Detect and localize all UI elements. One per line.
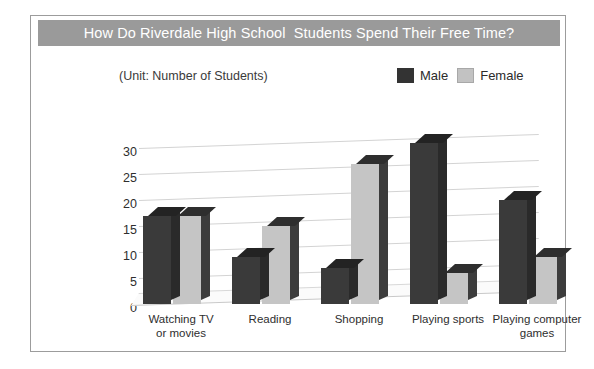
x-axis-label: Shopping bbox=[313, 312, 405, 326]
bar-face bbox=[410, 143, 438, 304]
bar-side bbox=[438, 135, 447, 300]
legend-item-female: Female bbox=[457, 68, 523, 83]
bar-male bbox=[143, 216, 171, 304]
bar-male bbox=[321, 268, 349, 304]
bar-male bbox=[232, 257, 260, 304]
bar-side bbox=[290, 218, 299, 300]
bar-side bbox=[171, 208, 180, 300]
legend-item-male: Male bbox=[397, 68, 448, 83]
bar-side bbox=[527, 192, 536, 300]
x-axis-label: Watching TVor movies bbox=[135, 312, 227, 340]
chart-legend: Male Female bbox=[397, 68, 524, 83]
bar-face bbox=[143, 216, 171, 304]
legend-label-male: Male bbox=[420, 69, 448, 82]
bar-male bbox=[410, 143, 438, 304]
bar-face bbox=[321, 268, 349, 304]
x-axis-label: Reading bbox=[224, 312, 316, 326]
x-axis-label: Playing computergames bbox=[491, 312, 583, 340]
bar-side bbox=[201, 208, 210, 300]
legend-swatch-female bbox=[457, 68, 474, 83]
bar-male bbox=[499, 200, 527, 304]
legend-swatch-male bbox=[397, 68, 414, 83]
plot-area: 051015202530 Watching TVor moviesReading… bbox=[109, 126, 549, 316]
legend-label-female: Female bbox=[480, 69, 523, 82]
chart-frame: How Do Riverdale High School Students Sp… bbox=[30, 15, 566, 352]
chart-title: How Do Riverdale High School Students Sp… bbox=[38, 20, 560, 46]
bar-face bbox=[499, 200, 527, 304]
x-axis-label: Playing sports bbox=[402, 312, 494, 326]
bar-side bbox=[379, 156, 388, 300]
bar-face bbox=[232, 257, 260, 304]
chart-subtitle: (Unit: Number of Students) bbox=[119, 69, 268, 83]
bars-layer bbox=[109, 126, 549, 316]
